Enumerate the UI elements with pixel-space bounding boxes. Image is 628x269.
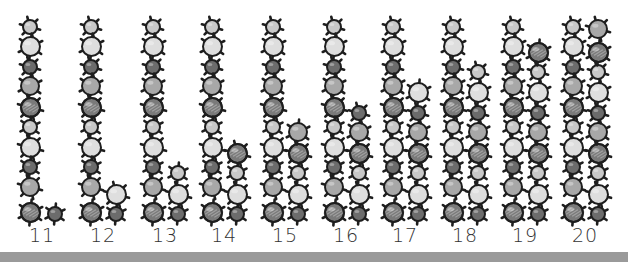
bottom-divider-bar (0, 252, 628, 262)
group-number-label: 20 (560, 224, 610, 246)
bead-medium-gray-icon (584, 15, 612, 43)
bead-group-20: 20 (0, 0, 628, 250)
bead-diagram: 11121314151617181920 (0, 0, 628, 269)
